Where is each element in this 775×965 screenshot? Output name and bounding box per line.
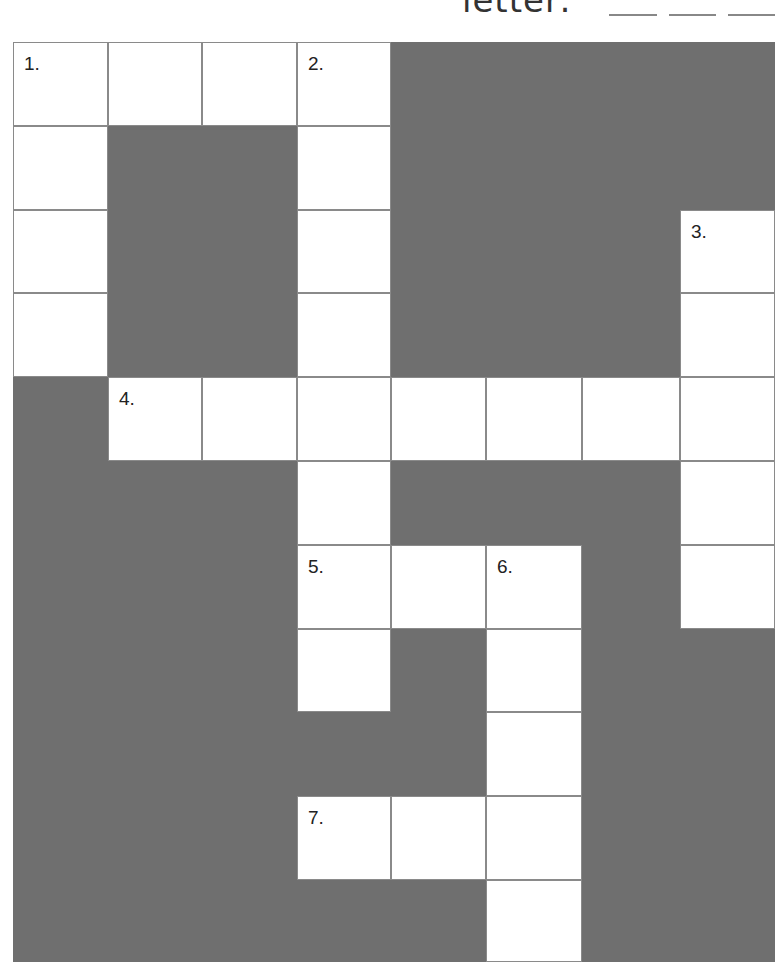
- answer-blank-1[interactable]: [609, 14, 656, 16]
- blocked-cell: [391, 42, 486, 126]
- blocked-cell: [297, 712, 391, 796]
- blocked-cell: [680, 126, 775, 210]
- clue-number: 7.: [308, 807, 324, 829]
- crossword-cell[interactable]: [297, 461, 391, 545]
- blocked-cell: [680, 880, 775, 962]
- blocked-cell: [13, 629, 108, 712]
- blocked-cell: [391, 629, 486, 712]
- crossword-cell[interactable]: [486, 377, 582, 461]
- crossword-cell[interactable]: [582, 377, 680, 461]
- blocked-cell: [202, 545, 297, 629]
- blocked-cell: [582, 629, 680, 712]
- blocked-cell: [391, 712, 486, 796]
- blocked-cell: [202, 629, 297, 712]
- blocked-cell: [391, 293, 486, 377]
- blocked-cell: [13, 796, 108, 880]
- crossword-cell[interactable]: [486, 880, 582, 962]
- blocked-cell: [391, 126, 486, 210]
- blocked-cell: [391, 461, 486, 545]
- crossword-cell[interactable]: [391, 377, 486, 461]
- crossword-cell[interactable]: [13, 126, 108, 210]
- crossword-cell[interactable]: [202, 377, 297, 461]
- blocked-cell: [391, 210, 486, 293]
- blocked-cell: [13, 545, 108, 629]
- clue-number: 3.: [691, 221, 707, 243]
- crossword-cell[interactable]: [680, 461, 775, 545]
- blocked-cell: [13, 880, 108, 962]
- blocked-cell: [13, 461, 108, 545]
- blocked-cell: [202, 293, 297, 377]
- crossword-cell[interactable]: [13, 293, 108, 377]
- blocked-cell: [108, 126, 202, 210]
- blocked-cell: [391, 880, 486, 962]
- crossword-cell[interactable]: [391, 796, 486, 880]
- blocked-cell: [108, 461, 202, 545]
- crossword-cell[interactable]: [486, 712, 582, 796]
- blocked-cell: [202, 880, 297, 962]
- blocked-cell: [108, 880, 202, 962]
- blocked-cell: [486, 461, 582, 545]
- blocked-cell: [108, 712, 202, 796]
- blocked-cell: [582, 545, 680, 629]
- blocked-cell: [582, 126, 680, 210]
- crossword-cell[interactable]: 7.: [297, 796, 391, 880]
- crossword-cell[interactable]: [297, 293, 391, 377]
- blocked-cell: [582, 42, 680, 126]
- clue-number: 4.: [119, 388, 135, 410]
- crossword-cell[interactable]: 2.: [297, 42, 391, 126]
- blocked-cell: [202, 126, 297, 210]
- blocked-cell: [108, 629, 202, 712]
- crossword-cell[interactable]: [391, 545, 486, 629]
- crossword-cell[interactable]: [486, 796, 582, 880]
- blocked-cell: [582, 712, 680, 796]
- answer-blank-3[interactable]: [728, 14, 775, 16]
- crossword-cell[interactable]: 4.: [108, 377, 202, 461]
- blocked-cell: [680, 712, 775, 796]
- clue-number: 1.: [24, 53, 40, 75]
- crossword-cell[interactable]: [297, 126, 391, 210]
- instruction-text: a letter:: [462, 0, 597, 20]
- blocked-cell: [297, 880, 391, 962]
- crossword-cell[interactable]: 6.: [486, 545, 582, 629]
- blocked-cell: [486, 126, 582, 210]
- blocked-cell: [680, 796, 775, 880]
- crossword-cell[interactable]: [297, 377, 391, 461]
- blocked-cell: [108, 293, 202, 377]
- crossword-cell[interactable]: 3.: [680, 210, 775, 293]
- clue-number: 6.: [497, 556, 513, 578]
- blocked-cell: [582, 293, 680, 377]
- blocked-cell: [202, 712, 297, 796]
- crossword-cell[interactable]: [680, 293, 775, 377]
- crossword-cell[interactable]: [108, 42, 202, 126]
- blocked-cell: [486, 210, 582, 293]
- blocked-cell: [582, 796, 680, 880]
- blocked-cell: [582, 461, 680, 545]
- crossword-cell[interactable]: [13, 210, 108, 293]
- blocked-cell: [13, 377, 108, 461]
- blocked-cell: [202, 796, 297, 880]
- crossword-cell[interactable]: [297, 210, 391, 293]
- crossword-cell[interactable]: [297, 629, 391, 712]
- crossword-cell[interactable]: [486, 629, 582, 712]
- crossword-grid: 1.2.3.4.5.6.7.: [13, 42, 775, 962]
- blocked-cell: [680, 629, 775, 712]
- blocked-cell: [108, 796, 202, 880]
- blocked-cell: [486, 293, 582, 377]
- clue-number: 5.: [308, 556, 324, 578]
- blocked-cell: [582, 880, 680, 962]
- crossword-cell[interactable]: [202, 42, 297, 126]
- instruction-header: a letter:: [462, 0, 775, 20]
- blocked-cell: [582, 210, 680, 293]
- crossword-cell[interactable]: [680, 377, 775, 461]
- blocked-cell: [486, 42, 582, 126]
- clue-number: 2.: [308, 53, 324, 75]
- blocked-cell: [108, 210, 202, 293]
- answer-blank-2[interactable]: [669, 14, 716, 16]
- blocked-cell: [680, 42, 775, 126]
- crossword-cell[interactable]: 5.: [297, 545, 391, 629]
- blocked-cell: [202, 461, 297, 545]
- crossword-cell[interactable]: [680, 545, 775, 629]
- crossword-cell[interactable]: 1.: [13, 42, 108, 126]
- blocked-cell: [13, 712, 108, 796]
- blocked-cell: [202, 210, 297, 293]
